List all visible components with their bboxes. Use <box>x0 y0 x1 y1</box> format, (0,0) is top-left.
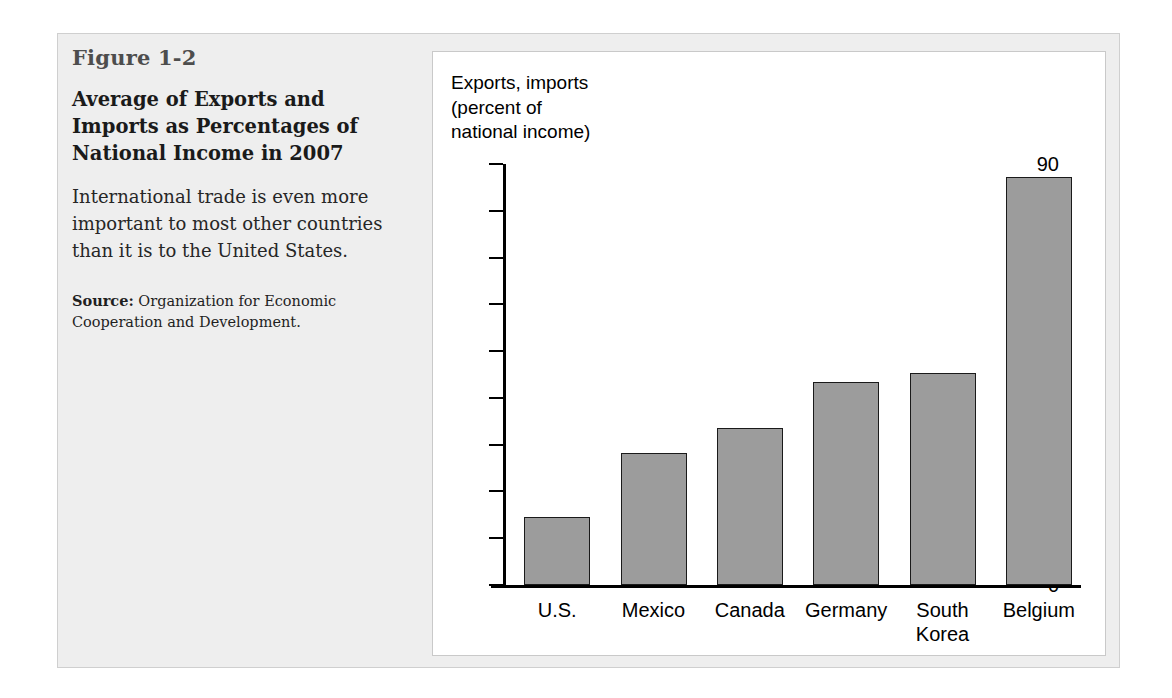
y-axis-caption: Exports, imports (percent of national in… <box>451 71 590 145</box>
figure-description: International trade is even more importa… <box>72 183 402 264</box>
y-tick-60 <box>489 303 503 305</box>
y-tick-label-90: 90 <box>1013 154 1059 174</box>
bar-south-korea <box>910 373 976 585</box>
y-tick-80 <box>489 210 503 212</box>
figure-source: Source: Organization for Economic Cooper… <box>72 290 402 333</box>
y-tick-70 <box>489 257 503 259</box>
figure-number: Figure 1-2 <box>72 45 422 70</box>
y-tick-0 <box>489 584 503 586</box>
y-tick-50 <box>489 350 503 352</box>
category-label-mexico: Mexico <box>605 598 701 622</box>
y-tick-90 <box>489 163 503 165</box>
plot-area: 9080706050403020100 U.S.MexicoCanadaGerm… <box>503 164 1081 585</box>
y-tick-30 <box>489 444 503 446</box>
y-tick-10 <box>489 537 503 539</box>
figure-page: Figure 1-2 Average of Exports and Import… <box>0 0 1172 698</box>
x-axis-line <box>491 585 1081 588</box>
y-tick-40 <box>489 397 503 399</box>
bar-u.s. <box>524 517 590 585</box>
category-label-belgium: Belgium <box>991 598 1087 622</box>
bar-germany <box>813 382 879 585</box>
source-label: Source: <box>72 292 134 309</box>
bar-canada <box>717 428 783 585</box>
y-axis-line <box>503 164 506 585</box>
bar-mexico <box>621 453 687 585</box>
category-label-canada: Canada <box>702 598 798 622</box>
y-tick-20 <box>489 490 503 492</box>
category-label-u.s.: U.S. <box>509 598 605 622</box>
figure-title: Average of Exports and Imports as Percen… <box>72 86 402 167</box>
category-label-south-korea: South Korea <box>894 598 990 646</box>
bar-belgium <box>1006 177 1072 585</box>
category-label-germany: Germany <box>798 598 894 622</box>
chart-panel: Exports, imports (percent of national in… <box>432 51 1106 656</box>
figure-caption-column: Figure 1-2 Average of Exports and Import… <box>72 45 422 345</box>
